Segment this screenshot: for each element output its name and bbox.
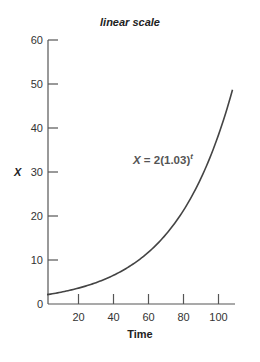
x-tick-label: 80	[177, 311, 189, 323]
y-axis-label: X	[13, 166, 22, 178]
y-tick-label: 60	[31, 34, 43, 46]
y-tick-label: 30	[31, 166, 43, 178]
y-tick-label: 50	[31, 78, 43, 90]
x-tick-label: 100	[209, 311, 227, 323]
y-tick-label: 40	[31, 122, 43, 134]
axes	[48, 40, 235, 304]
tick-marks: 010203040506020406080100	[31, 34, 228, 323]
equation-annotation: X = 2(1.03)t	[132, 152, 193, 166]
y-tick-label: 20	[31, 210, 43, 222]
growth-curve	[47, 90, 233, 295]
x-axis-label: Time	[127, 328, 152, 340]
y-tick-label: 10	[31, 254, 43, 266]
x-tick-label: 60	[142, 311, 154, 323]
chart-plot: 010203040506020406080100 X Time X = 2(1.…	[0, 0, 260, 362]
y-tick-label: 0	[37, 298, 43, 310]
x-tick-label: 40	[107, 311, 119, 323]
x-tick-label: 20	[72, 311, 84, 323]
